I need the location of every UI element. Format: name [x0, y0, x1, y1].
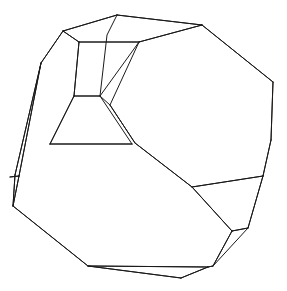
edge-neck_right-to-inner_upper_small_right: [100, 42, 139, 96]
edge-sliver_left_cross_a-to-sliver_left_cross_b: [10, 176, 19, 177]
edge-bottom_dip-to-bottom_right_end: [181, 267, 208, 278]
edge-bottom_left_bend-to-bottom_dip: [88, 266, 181, 278]
edge-right_upper-to-top_right_shoulder: [202, 25, 273, 82]
central-ridge-group: [110, 105, 263, 231]
edge-left_tip-to-bottom_left_bend: [13, 206, 88, 266]
polyhedron-diagram: [0, 0, 287, 291]
edge-top_apex-to-top_right_shoulder: [117, 15, 202, 25]
edge-neck_left-to-top_left_shoulder: [63, 31, 79, 42]
edge-top_right_shoulder-to-neck_right: [139, 25, 202, 42]
edge-inner_upper_small_left-to-inner_mid_left: [50, 96, 74, 144]
edge-top_left_shoulder-to-upper_left_ridge: [41, 31, 63, 63]
edge-inner_lower_junction-to-right_lower_junction: [192, 176, 263, 187]
edge-right_mid-to-right_upper: [271, 82, 273, 140]
edge-inner_lower_junction-to-lower_right_facet_top_left: [192, 187, 232, 231]
edge-upper_left_ridge-to-sliver_left_cross_b: [19, 63, 41, 176]
edge-lower_right_facet_top_right-to-right_lower_junction: [248, 176, 263, 228]
edge-bottom_left_bend-to-bottom_right_end: [88, 266, 208, 267]
data-driven-edges: [10, 15, 273, 278]
edge-bottom_right_end-to-lower_right_facet_bottom: [208, 266, 213, 267]
outer-outline-group: [13, 15, 273, 278]
edge-inner_ridge_top-to-inner_mid_junction: [110, 105, 135, 143]
facet-small-right-edge: [110, 42, 139, 105]
edge-neck_left-to-inner_upper_small_left: [74, 42, 79, 96]
edge-upper_left_ridge-to-left_edge_mid: [15, 63, 41, 175]
figure-root: [0, 0, 287, 291]
edge-inner_mid_junction-to-inner_lower_junction: [135, 143, 192, 187]
facet-mid-right-edge: [100, 96, 132, 144]
edge-right_lower_junction-to-right_mid: [263, 140, 271, 176]
edge-top_apex-to-top_left_shoulder: [63, 15, 117, 31]
